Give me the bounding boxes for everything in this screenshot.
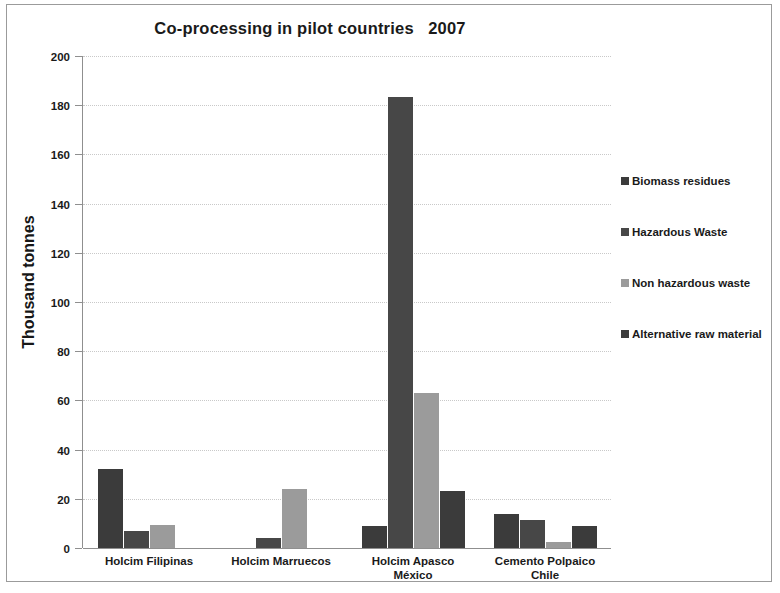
x-axis-category-labels: Holcim FilipinasHolcim MarruecosHolcim A… [83, 554, 611, 582]
legend-swatch-icon [621, 177, 629, 185]
y-axis-tick: 0 [75, 548, 82, 549]
legend-label: Biomass residues [632, 175, 730, 187]
x-axis-category-label: Holcim Filipinas [83, 554, 215, 568]
x-axis-line [83, 548, 611, 549]
bar-group [83, 56, 215, 548]
y-axis-tick-label: 60 [57, 395, 70, 407]
legend-item[interactable]: Alternative raw material [621, 324, 762, 375]
bar-group [215, 56, 347, 548]
y-axis-tick-label: 80 [57, 346, 70, 358]
category-label-line: Chile [479, 568, 611, 582]
y-axis-tick-label: 180 [51, 100, 70, 112]
y-axis-tick: 40 [75, 450, 82, 451]
bar [150, 525, 175, 548]
y-axis-tick-label: 40 [57, 445, 70, 457]
category-label-line: Holcim Apasco [347, 554, 479, 568]
bar [572, 526, 597, 548]
chart-title: Co-processing in pilot countries 2007 [7, 19, 613, 38]
chart-frame: Co-processing in pilot countries 2007 Th… [6, 4, 772, 582]
chart-legend: Biomass residuesHazardous WasteNon hazar… [621, 171, 762, 375]
x-axis-category-label: Holcim Marruecos [215, 554, 347, 568]
category-label-line: Cemento Polpaico [479, 554, 611, 568]
plot-inner: 020406080100120140160180200 [83, 56, 611, 548]
y-axis-tick-label: 0 [64, 543, 70, 555]
y-axis-tick: 120 [75, 253, 82, 254]
legend-swatch-icon [621, 228, 629, 236]
legend-swatch-icon [621, 330, 629, 338]
bar-group [479, 56, 611, 548]
legend-label: Hazardous Waste [632, 226, 727, 238]
y-axis-tick-label: 160 [51, 149, 70, 161]
plot-area: 020406080100120140160180200 [83, 56, 611, 548]
bar [362, 526, 387, 548]
y-axis-tick: 160 [75, 154, 82, 155]
bar [546, 542, 571, 548]
category-label-line: Holcim Marruecos [215, 554, 347, 568]
bar [98, 469, 123, 548]
y-axis-tick-label: 120 [51, 248, 70, 260]
bar [282, 489, 307, 548]
legend-swatch-icon [621, 279, 629, 287]
legend-label: Alternative raw material [632, 328, 762, 340]
bar-group [347, 56, 479, 548]
bar [520, 520, 545, 548]
bar [256, 538, 281, 548]
bar [440, 491, 465, 548]
y-axis-tick-label: 140 [51, 199, 70, 211]
bar [494, 514, 519, 548]
y-axis-tick-label: 100 [51, 297, 70, 309]
y-axis-tick: 20 [75, 499, 82, 500]
legend-label: Non hazardous waste [632, 277, 750, 289]
y-axis-tick: 100 [75, 302, 82, 303]
y-axis-tick: 140 [75, 204, 82, 205]
x-axis-category-label: Holcim ApascoMéxico [347, 554, 479, 582]
legend-item[interactable]: Biomass residues [621, 171, 762, 222]
y-axis-tick-label: 20 [57, 494, 70, 506]
bar [124, 531, 149, 548]
y-axis-tick: 200 [75, 56, 82, 57]
x-axis-category-label: Cemento PolpaicoChile [479, 554, 611, 582]
category-label-line: Holcim Filipinas [83, 554, 215, 568]
legend-item[interactable]: Hazardous Waste [621, 222, 762, 273]
y-axis-tick-label: 200 [51, 51, 70, 63]
category-label-line: México [347, 568, 479, 582]
bar [414, 393, 439, 548]
y-axis-tick: 60 [75, 400, 82, 401]
legend-item[interactable]: Non hazardous waste [621, 273, 762, 324]
y-axis-title: Thousand tonnes [20, 172, 38, 392]
y-axis-tick: 80 [75, 351, 82, 352]
bar [388, 97, 413, 548]
y-axis-tick: 180 [75, 105, 82, 106]
